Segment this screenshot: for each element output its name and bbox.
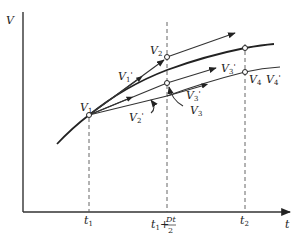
slope-v1-mid [89,78,140,115]
v3-pointer [169,87,183,106]
v2-tangent-arrow [167,33,235,57]
y-axis-label: V [6,14,15,27]
tick-t2: t2 [240,214,249,228]
label-v2-prime: V2' [129,111,144,125]
time-guides [89,22,245,212]
label-v4-prime: V4' [266,73,281,87]
runge-kutta-diagram: V t t1 t1+ Dt 2 t2 V1 V2 V3 V4 V1' V2' V… [0,0,305,244]
v3-tangent-arrow [167,68,216,83]
label-v3-prime-upper: V3' [221,62,236,76]
tick-t-mid-frac-den: 2 [168,226,173,235]
point-v4 [243,70,248,75]
label-v3-prime-lower: V3' [186,89,201,103]
label-v2: V2 [150,44,162,58]
label-v1-prime: V1' [118,70,133,84]
tick-t1: t1 [84,214,93,228]
axes [23,12,290,212]
v2-prime-pointer [151,100,154,113]
point-v2 [165,55,170,60]
tick-t-mid-frac-num: Dt [165,215,176,224]
point-v3 [165,81,170,86]
label-v3: V3 [190,104,202,118]
x-axis-label: t [285,218,290,231]
label-v4: V4 [249,73,262,87]
label-v1: V1 [80,101,92,115]
point-t2-upper [243,46,248,51]
